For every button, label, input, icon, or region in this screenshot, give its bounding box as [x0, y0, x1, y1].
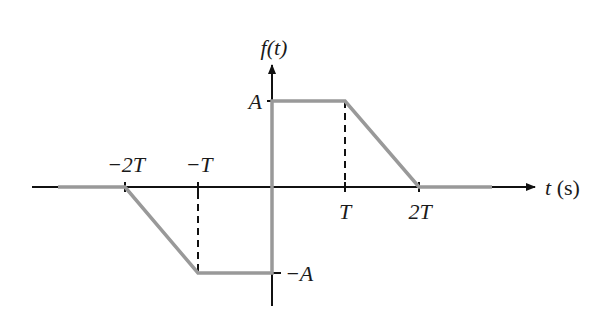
- y-axis-label: f(t): [261, 35, 288, 60]
- x-tick-label-neg-T: −T: [185, 152, 214, 177]
- x-tick-label-neg-2T: −2T: [107, 152, 147, 177]
- x-tick-label-T: T: [339, 199, 353, 224]
- x-tick-label-2T: 2T: [408, 199, 433, 224]
- y-tick-label-neg-A: −A: [285, 261, 314, 286]
- x-axis-label: t (s): [545, 175, 580, 200]
- y-tick-label-A: A: [247, 89, 263, 114]
- signal-diagram: f(t) t (s) A −A −2T −T T 2T: [0, 0, 607, 321]
